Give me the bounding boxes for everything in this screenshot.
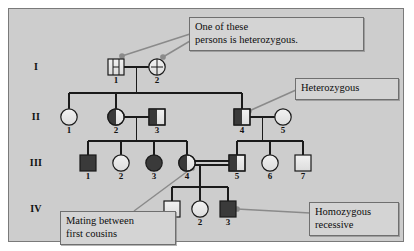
id-label-II-2: 2: [108, 125, 124, 135]
callout-line-2: recessive: [315, 219, 393, 232]
callout-line-1: Mating between: [66, 215, 170, 228]
symbol-I-2: [149, 59, 165, 75]
leader-to-I-1: [122, 34, 190, 56]
symbol-III-7: [295, 155, 311, 171]
generation-label-IV: IV: [25, 203, 47, 214]
id-label-I-2: 2: [149, 75, 165, 85]
id-label-II-5: 5: [275, 125, 291, 135]
callout-mating-between-first-cousins: Mating between first cousins: [60, 211, 176, 245]
id-label-III-3: 3: [146, 171, 162, 181]
symbol-II-5: [275, 109, 291, 125]
symbol-II-4: [234, 109, 250, 125]
symbol-III-4: [179, 155, 195, 171]
id-label-IV-3: 3: [220, 217, 236, 227]
symbol-III-5: [229, 155, 245, 171]
pedigree-canvas: I II III IV 1 2 1 2 3 4 5 1 2 3 4 5 6 7 …: [0, 0, 414, 251]
generation-label-II: II: [25, 111, 47, 122]
callout-line-2: first cousins: [66, 228, 170, 241]
id-label-III-6: 6: [262, 171, 278, 181]
id-label-IV-2: 2: [192, 217, 208, 227]
id-label-III-7: 7: [295, 171, 311, 181]
callout-one-of-these-persons-is-heterozygous: One of these persons is heterozygous.: [189, 17, 364, 51]
id-label-I-1: 1: [108, 75, 124, 85]
symbol-IV-2: [192, 201, 208, 217]
symbol-III-3: [146, 155, 162, 171]
leader-dot-I-2: [161, 55, 165, 59]
leader-to-I-2: [163, 41, 190, 57]
callout-line-1: Heterozygous: [301, 82, 393, 95]
callout-line-2: persons is heterozygous.: [195, 34, 358, 47]
leader-to-II-4: [249, 90, 296, 111]
symbol-II-1: [61, 109, 77, 125]
pedigree-figure: I II III IV 1 2 1 2 3 4 5 1 2 3 4 5 6 7 …: [0, 0, 414, 251]
id-label-II-1: 1: [61, 125, 77, 135]
callout-heterozygous: Heterozygous: [295, 78, 399, 100]
id-label-III-2: 2: [113, 171, 129, 181]
callout-homozygous-recessive: Homozygous recessive: [309, 202, 399, 236]
symbol-II-2: [108, 109, 124, 125]
id-label-II-3: 3: [149, 125, 165, 135]
leader-dot-I-1: [120, 54, 124, 58]
symbol-I-1: [108, 59, 124, 75]
callout-line-1: One of these: [195, 21, 358, 34]
id-label-III-4: 4: [179, 171, 195, 181]
symbol-III-2: [113, 155, 129, 171]
symbol-III-6: [262, 155, 278, 171]
generation-label-I: I: [25, 61, 47, 72]
id-label-III-5: 5: [229, 171, 245, 181]
symbol-II-3: [149, 109, 165, 125]
callout-line-1: Homozygous: [315, 206, 393, 219]
id-label-II-4: 4: [234, 125, 250, 135]
leader-to-IV-3: [237, 209, 310, 213]
symbol-IV-3: [220, 201, 236, 217]
id-label-III-1: 1: [80, 171, 96, 181]
generation-label-III: III: [25, 157, 47, 168]
symbol-III-1: [80, 155, 96, 171]
